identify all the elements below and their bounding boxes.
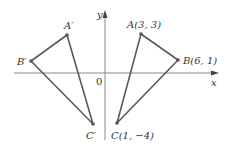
point-c-prime: [91, 122, 95, 126]
triangle-reflected: [31, 35, 93, 124]
point-b: [176, 58, 180, 62]
label-b-prime: B′: [16, 56, 27, 67]
coordinate-plane-diagram: y x 0 A(3, 3) B(6, 1) C(1, −4) A′ B′ C′: [0, 0, 228, 149]
label-c-prime: C′: [86, 130, 97, 141]
origin-label: 0: [96, 76, 102, 87]
point-c: [115, 121, 119, 125]
y-axis-label: y: [96, 9, 103, 20]
label-a: A(3, 3): [126, 19, 161, 30]
point-a: [139, 32, 143, 36]
label-b: B(6, 1): [182, 55, 217, 66]
point-b-prime: [29, 59, 33, 63]
label-c: C(1, −4): [111, 130, 154, 141]
label-a-prime: A′: [63, 20, 74, 31]
x-axis-arrow-icon: [211, 71, 219, 76]
triangle-original: [117, 34, 178, 123]
x-axis-label: x: [211, 77, 217, 88]
y-axis-arrow-icon: [103, 10, 108, 18]
point-a-prime: [65, 33, 69, 37]
